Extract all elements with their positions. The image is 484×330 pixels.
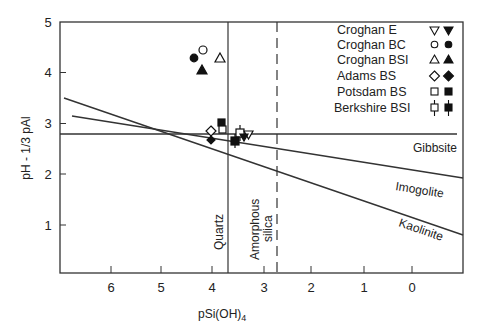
y-tick-labels: 1 2 3 4 5: [44, 15, 51, 233]
legend-triangle-up-filled-icon: [444, 55, 453, 63]
croghan-bsi-filled-point: [197, 65, 207, 74]
svg-text:2: 2: [307, 280, 314, 295]
legend-triangle-down-open-icon: [430, 27, 439, 35]
x-axis-title: pSi(OH)4: [198, 307, 246, 323]
legend-triangle-down-filled-icon: [444, 27, 453, 35]
legend-square-open-icon: [431, 88, 438, 95]
legend-circle-open-icon: [431, 41, 438, 48]
legend-circle-filled-icon: [445, 41, 452, 48]
imogolite-label: Imogolite: [395, 179, 446, 200]
legend-square-filled-icon: [445, 88, 452, 95]
svg-text:Potsdam BS: Potsdam BS: [337, 85, 406, 99]
imogolite-line: [72, 116, 463, 178]
legend-triangle-up-open-icon: [430, 55, 439, 63]
kaolinite-label: Kaolinite: [397, 216, 445, 244]
svg-text:Berkshire BSI: Berkshire BSI: [334, 101, 410, 115]
svg-text:0: 0: [408, 280, 415, 295]
legend-square-bar-filled-icon: [445, 104, 452, 111]
svg-text:Croghan BSI: Croghan BSI: [337, 53, 409, 67]
legend-diamond-open-icon: [430, 71, 440, 81]
svg-text:Croghan BC: Croghan BC: [337, 38, 406, 52]
potsdam-filled-point: [218, 119, 225, 126]
legend-diamond-filled-icon: [444, 71, 454, 81]
x-tick-labels: 6 5 4 3 2 1 0: [107, 280, 415, 295]
svg-text:5: 5: [157, 280, 164, 295]
berkshire-filled-point: [231, 137, 239, 145]
quartz-label: Quartz: [212, 214, 226, 250]
y-axis-title: pH - 1/3 pAl: [19, 116, 33, 179]
legend: Croghan E Croghan BC Croghan BSI Adams B…: [334, 23, 454, 116]
svg-text:4: 4: [208, 280, 215, 295]
gibbsite-label: Gibbsite: [413, 141, 457, 155]
data-points: [190, 46, 253, 148]
x-axis: [111, 266, 412, 273]
svg-text:3: 3: [44, 116, 51, 131]
potsdam-open-point: [219, 126, 226, 133]
svg-text:Adams BS: Adams BS: [337, 69, 396, 83]
kaolinite-line: [64, 98, 463, 235]
croghan-bc-filled-point: [190, 54, 198, 62]
croghan-bc-open-point: [199, 46, 207, 54]
svg-text:2: 2: [44, 167, 51, 182]
silica-label: silica: [261, 215, 275, 242]
svg-text:5: 5: [44, 15, 51, 30]
y-axis: [60, 73, 66, 226]
svg-text:Croghan E: Croghan E: [337, 23, 397, 37]
legend-square-bar-open-icon: [431, 104, 438, 111]
amorphous-label: Amorphous: [248, 199, 262, 260]
svg-text:1: 1: [44, 218, 51, 233]
svg-text:1: 1: [360, 280, 367, 295]
svg-text:3: 3: [260, 280, 267, 295]
svg-text:4: 4: [44, 65, 51, 80]
chart: 1 2 3 4 5 pH - 1/3 pAl 6 5 4 3 2 1 0 pSi…: [0, 0, 484, 330]
svg-text:6: 6: [107, 280, 114, 295]
croghan-bsi-open-point: [215, 53, 225, 62]
